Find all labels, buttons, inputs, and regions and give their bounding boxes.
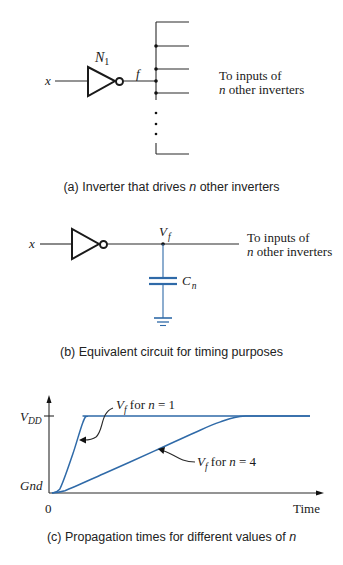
gate-label: N1 (94, 50, 109, 67)
note-line-1: To inputs of (247, 230, 310, 245)
x-axis-arrow-icon (316, 491, 324, 496)
ellipsis-dot (155, 133, 158, 136)
note-line-2: n other inverters (219, 82, 304, 97)
junction-dot (154, 44, 158, 48)
caption-a: (a) Inverter that drives n other inverte… (63, 180, 279, 194)
annotation-n4: Vf for n = 4 (197, 454, 257, 472)
y-axis-arrow-icon (47, 395, 52, 403)
panel-b: x Vf Cn To inputs of n other inverters (… (28, 224, 332, 359)
note-line-2: n other inverters (247, 244, 332, 259)
curve-n1 (52, 416, 310, 493)
note-line-1: To inputs of (219, 68, 282, 83)
caption-c: (c) Propagation times for different valu… (47, 530, 296, 544)
output-label-f: f (136, 66, 142, 81)
y-tick-gnd: Gnd (20, 478, 43, 493)
inverter-gate (72, 229, 99, 259)
curve-n4 (52, 416, 310, 493)
junction-dot (154, 79, 158, 83)
caption-b: (b) Equivalent circuit for timing purpos… (60, 345, 283, 359)
annotation-n1: Vf for n = 1 (116, 397, 175, 415)
y-tick-vdd: VDD (20, 409, 42, 426)
figure: x N1 f To inputs of n other inverters (a… (0, 0, 343, 565)
junction-dot (154, 91, 158, 95)
cap-label-cn: Cn (182, 273, 197, 291)
node-label-vf: Vf (159, 224, 172, 242)
panel-c-chart: VDD Gnd 0 Time Vf for n = 1 Vf for n = 4… (20, 395, 324, 544)
input-label-x: x (44, 73, 51, 88)
annotation-arrow-icon (79, 437, 86, 444)
inverter-gate-n1 (88, 67, 115, 96)
ellipsis-dot (155, 123, 158, 126)
annotation-arrow-icon (158, 447, 165, 454)
x-axis-label: Time (293, 501, 320, 516)
x-tick-origin: 0 (45, 501, 52, 516)
inverter-bubble (116, 78, 123, 85)
panel-a: x N1 f To inputs of n other inverters (a… (44, 22, 304, 194)
junction-dot (154, 67, 158, 71)
ground-icon (154, 318, 172, 326)
inverter-bubble (100, 241, 107, 248)
ellipsis-dot (155, 112, 158, 115)
input-label-x: x (28, 236, 35, 251)
annotation-leader-n4 (164, 451, 195, 462)
annotation-leader-n1 (84, 408, 113, 440)
